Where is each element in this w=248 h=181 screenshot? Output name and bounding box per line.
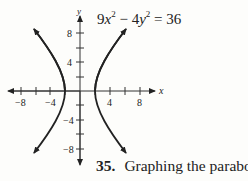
svg-text:8: 8	[137, 97, 142, 108]
problem-text: Graphing the parabola:	[124, 157, 248, 174]
svg-text:8: 8	[67, 28, 72, 39]
problem-number: 35.	[96, 157, 115, 174]
svg-text:−4: −4	[45, 97, 56, 108]
equation-label: 9x2 − 4y2 = 36	[97, 9, 181, 28]
problem-caption: 35.Graphing the parabola:	[96, 157, 248, 175]
svg-text:−8: −8	[15, 97, 26, 108]
svg-text:−4: −4	[63, 115, 74, 126]
y-axis-label: y	[76, 6, 81, 16]
svg-text:4: 4	[107, 97, 112, 108]
svg-text:4: 4	[67, 57, 72, 68]
x-axis-label: x	[158, 85, 164, 96]
svg-text:−8: −8	[63, 144, 74, 155]
